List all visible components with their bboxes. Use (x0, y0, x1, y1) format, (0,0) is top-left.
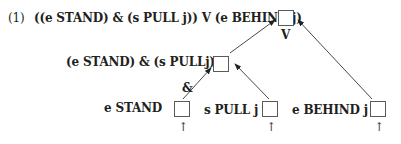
root-operator-label: V (281, 28, 290, 42)
input-arrow-icon: ↑ (266, 121, 276, 133)
example-number: (1) (8, 11, 24, 25)
leaf-label-s-pull-j: s PULL j (204, 103, 258, 117)
leaf-node-box-e-stand (174, 101, 190, 117)
formula-text: ((e STAND) & (s PULL j)) V (e BEHIND j) (34, 11, 302, 25)
leaf-node-box-s-pull-j (262, 101, 278, 117)
input-arrow-icon: ↑ (374, 121, 384, 133)
edge-pull-to-conj (235, 64, 269, 99)
input-arrow-icon: ↑ (178, 121, 188, 133)
leaf-label-e-stand: e STAND (104, 101, 162, 115)
leaf-node-box-e-behind-j (370, 101, 386, 117)
root-node-box (278, 10, 294, 26)
conjunction-node-box (213, 56, 229, 72)
conjunction-label: (e STAND) & (s PULLj) (66, 55, 215, 69)
leaf-label-e-behind-j: e BEHIND j (292, 103, 368, 117)
edge-behind-to-root (298, 20, 372, 99)
conjunction-operator-label: & (182, 81, 193, 95)
